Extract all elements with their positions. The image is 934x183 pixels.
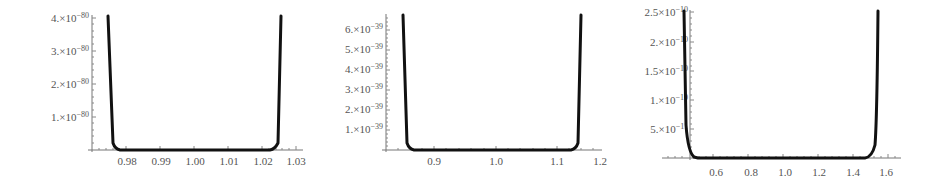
chart-1-x-label: 0.98 <box>117 155 137 167</box>
chart-1-y-label-2: 2.×10−80 <box>51 77 89 90</box>
chart-2-curve <box>403 15 581 150</box>
chart-1-y-label-1: 1.×10−80 <box>51 110 89 123</box>
chart-2: 6.×10−39 5.×10−39 4.×10−39 3.×10−39 2.×1… <box>345 14 607 167</box>
chart-2-x-label: 1.1 <box>550 155 564 167</box>
chart-2-y-ticks <box>386 18 390 146</box>
chart-3-x-label: 1.0 <box>778 166 792 178</box>
chart-2-y-label-2: 2.×10−39 <box>345 102 383 115</box>
chart-3-x-label: 0.8 <box>744 166 758 178</box>
chart-1-x-label: 0.99 <box>151 155 171 167</box>
chart-1-y-label-3: 3.×10−80 <box>51 44 89 57</box>
chart-2-y-label-1: 1.×10−39 <box>345 122 383 135</box>
chart-3-curve <box>684 11 878 158</box>
chart-2-x-label: 0.9 <box>427 155 441 167</box>
chart-3-y-label-2: 2.×10−10 <box>650 35 688 48</box>
chart-2-y-label-6: 6.×10−39 <box>345 22 383 35</box>
chart-2-x-label: 1.2 <box>593 155 607 167</box>
chart-1-x-label: 1.01 <box>219 155 238 167</box>
chart-1-x-label: 1.02 <box>253 155 272 167</box>
chart-1-curve <box>108 16 281 150</box>
chart-3-x-label: 0.6 <box>709 166 723 178</box>
chart-3-y-label-2.5: 2.5×10−10 <box>645 5 688 18</box>
chart-3-x-label: 1.6 <box>879 166 893 178</box>
chart-3-y-label-1: 1.×10−10 <box>650 93 688 106</box>
chart-1: 4.×10−80 3.×10−80 2.×10−80 1.×10−80 0.98… <box>51 11 306 167</box>
chart-3-y-ticks <box>690 12 694 153</box>
chart-2-x-label: 1.0 <box>489 155 503 167</box>
chart-3: 2.5×10−10 2.×10−10 1.5×10−10 1.×10−10 5.… <box>645 5 901 178</box>
chart-1-x-label: 1.03 <box>286 155 306 167</box>
chart-1-x-label: 1.00 <box>185 155 205 167</box>
chart-3-x-label: 1.2 <box>812 166 826 178</box>
chart-1-y-ticks <box>92 18 96 143</box>
chart-2-y-label-3: 3.×10−39 <box>345 82 383 95</box>
chart-2-y-label-5: 5.×10−39 <box>345 42 383 55</box>
chart-1-y-label-4: 4.×10−80 <box>51 11 89 24</box>
chart-3-y-label-0.5: 5.×10−11 <box>650 122 688 135</box>
chart-3-y-label-1.5: 1.5×10−10 <box>645 64 688 77</box>
chart-2-y-label-4: 4.×10−39 <box>345 62 383 75</box>
chart-3-x-label: 1.4 <box>846 166 860 178</box>
